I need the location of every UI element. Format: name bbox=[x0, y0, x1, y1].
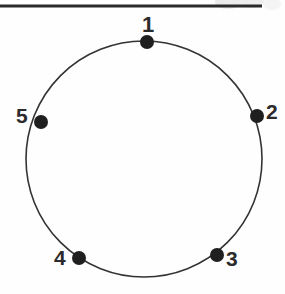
point-marker-1[interactable] bbox=[140, 35, 154, 49]
circle-diagram-svg bbox=[0, 0, 285, 294]
circle-outline bbox=[26, 41, 262, 277]
point-markers-group bbox=[34, 35, 264, 265]
point-marker-2[interactable] bbox=[250, 109, 264, 123]
point-label-1: 1 bbox=[142, 14, 154, 36]
point-marker-3[interactable] bbox=[210, 248, 224, 262]
figure-canvas: 1 2 3 4 5 bbox=[0, 0, 285, 294]
point-marker-4[interactable] bbox=[72, 251, 86, 265]
point-label-3: 3 bbox=[226, 248, 238, 269]
point-label-5: 5 bbox=[16, 105, 28, 126]
scan-smudge-icon bbox=[263, 0, 281, 10]
point-label-4: 4 bbox=[54, 247, 66, 268]
point-marker-5[interactable] bbox=[34, 115, 48, 129]
point-label-2: 2 bbox=[266, 101, 278, 122]
